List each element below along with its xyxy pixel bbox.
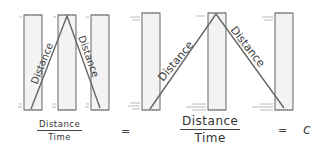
mirror-frame-4 xyxy=(142,13,160,110)
equals-sign-2: = xyxy=(278,124,287,137)
fraction-right: Distance Time xyxy=(180,114,240,145)
numerator-right: Distance xyxy=(180,114,240,130)
mirror-frame-5 xyxy=(208,13,226,110)
right-panel xyxy=(142,13,293,110)
denominator-left: Time xyxy=(48,131,71,142)
fraction-left: Distance Time xyxy=(37,119,82,142)
path-label-right-down: Distance xyxy=(228,24,268,70)
mirror-frame-2 xyxy=(58,15,76,110)
path-label-right-up: Distance xyxy=(155,39,196,84)
numerator-left: Distance xyxy=(37,119,82,131)
mirror-frame-6 xyxy=(275,13,293,110)
denominator-right: Time xyxy=(195,130,226,145)
equals-sign-1: = xyxy=(121,125,130,138)
constant-c: c xyxy=(303,121,311,137)
